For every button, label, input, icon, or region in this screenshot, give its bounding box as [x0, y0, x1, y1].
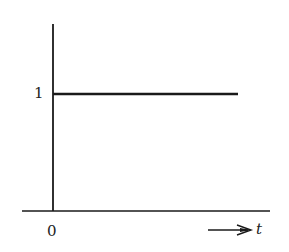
x-direction-arrow-icon	[208, 225, 251, 235]
y-tick-label-1: 1	[34, 86, 44, 101]
step-function-plot	[0, 0, 289, 252]
x-tick-label-0: 0	[47, 224, 57, 239]
x-axis-label: t	[256, 222, 262, 237]
